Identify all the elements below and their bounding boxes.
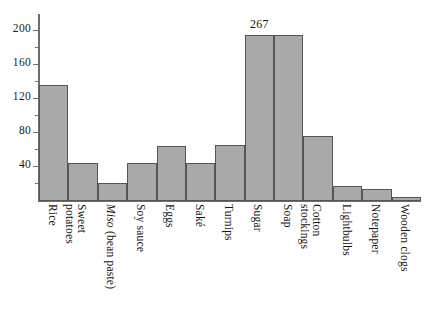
bar-group[interactable] [362,0,391,201]
bar-group[interactable] [333,0,362,201]
bar-value-label: 267 [250,17,269,32]
category-label: Wooden clogs [399,204,411,272]
category-label: Notepaper [369,204,381,254]
category-labels-layer: RiceSweetpotatoesMiso (bean paste)Soy sa… [39,204,421,319]
bar-rect[interactable] [127,163,156,201]
plot-area: 4080120160200 267 RiceSweetpotatoesMiso … [0,0,425,319]
bar-group[interactable] [127,0,156,201]
bar-chart-figure: 4080120160200 267 RiceSweetpotatoesMiso … [0,0,425,319]
bar-rect[interactable] [245,35,274,201]
y-tick-label: 200 [1,22,31,34]
category-label: Sweetpotatoes [76,204,88,233]
bar-rect[interactable] [186,163,215,201]
category-label: Turnips [223,204,235,241]
bar-rect[interactable] [98,183,127,201]
category-label: Lightbulbs [340,204,352,256]
category-label-line2: stockings [299,204,311,249]
y-tick-label: 160 [1,56,31,68]
bar-group[interactable] [68,0,97,201]
bar-rect[interactable] [392,197,421,201]
category-label-line1: Cotton [311,204,323,237]
category-label-italic: Miso [105,204,117,228]
bar-rect[interactable] [362,189,391,201]
category-label: Miso (bean paste) [105,204,117,289]
category-label: Sugar [252,204,264,232]
bar-group[interactable]: 267 [245,0,274,201]
bar-group[interactable] [157,0,186,201]
category-label-line1: Sweet [76,204,88,233]
bar-rect[interactable] [215,145,244,201]
category-label: Cottonstockings [311,204,323,237]
category-label: Saké [193,204,205,227]
y-tick-label: 120 [1,90,31,102]
bar-rect[interactable] [274,35,303,201]
y-tick-label: 40 [1,158,31,170]
y-tick-label: 80 [1,124,31,136]
category-label-line2: potatoes [64,204,76,244]
bar-rect[interactable] [39,85,68,201]
bar-rect[interactable] [303,136,332,201]
bar-group[interactable] [39,0,68,201]
bar-group[interactable] [392,0,421,201]
bar-group[interactable] [274,0,303,201]
bars-layer: 267 [39,0,421,201]
bar-rect[interactable] [157,146,186,201]
category-label: Soap [281,204,293,228]
bar-rect[interactable] [333,186,362,201]
category-label: Rice [46,204,58,226]
bar-group[interactable] [303,0,332,201]
bar-group[interactable] [186,0,215,201]
category-label: Soy sauce [134,204,146,252]
bar-group[interactable] [215,0,244,201]
category-label: Eggs [164,204,176,228]
bar-rect[interactable] [68,163,97,201]
bar-group[interactable] [98,0,127,201]
